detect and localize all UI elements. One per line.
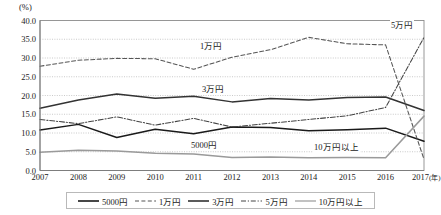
series-label-ichiman: 1万円 [199, 41, 223, 52]
legend-item[interactable]: 1万円 [135, 195, 181, 207]
legend-label: 1万円 [159, 195, 181, 207]
legend-item[interactable]: 5000円 [78, 195, 128, 207]
legend-swatch-5000円 [78, 197, 99, 205]
series-label-sanman: 3万円 [201, 84, 225, 95]
legend-label: 5万円 [265, 195, 287, 207]
legend-label: 3万円 [212, 195, 234, 207]
series-label-juman: 10万円以上 [313, 142, 360, 153]
series-label-goman: 5万円 [390, 20, 414, 31]
legend-item[interactable]: 5万円 [241, 195, 287, 207]
legend-item[interactable]: 10万円以上 [295, 195, 364, 207]
legend-swatch-5万円 [241, 197, 262, 205]
legend-item[interactable]: 3万円 [188, 195, 234, 207]
legend-label: 5000円 [102, 195, 128, 207]
legend-swatch-10万円以上 [295, 197, 316, 205]
series-label-gosen: 5000円 [190, 140, 218, 151]
legend-swatch-3万円 [188, 197, 209, 205]
legend-swatch-1万円 [135, 197, 156, 205]
legend-label: 10万円以上 [319, 195, 364, 207]
plot-area [0, 0, 441, 215]
line-chart: (%) 40.035.030.025.020.015.010.05.00.0 2… [0, 0, 441, 215]
chart-legend: 5000円1万円3万円5万円10万円以上 [66, 192, 375, 209]
